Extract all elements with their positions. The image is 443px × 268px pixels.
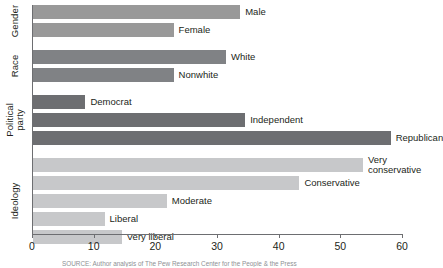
bar-value-label: White [231, 52, 255, 62]
x-tick-label: 30 [211, 240, 223, 252]
group-label-political-party: Political party [0, 95, 30, 145]
bar [33, 113, 245, 127]
bar [33, 5, 240, 19]
x-tick [340, 234, 341, 238]
bar-value-label: Moderate [172, 196, 212, 206]
bar-row: Republican [33, 131, 443, 145]
x-tick-label: 60 [396, 240, 408, 252]
x-tick [402, 234, 403, 238]
bar [33, 131, 391, 145]
x-axis: 0102030405060 [32, 234, 402, 258]
group-label-gender: Gender [0, 5, 30, 37]
bar-row: Conservative [33, 176, 360, 190]
bar [33, 212, 105, 226]
bar-value-label: Independent [250, 115, 303, 125]
bar-value-label: Conservative [304, 178, 359, 188]
bar-row: Very conservative [33, 158, 421, 172]
x-tick [217, 234, 218, 238]
bar-value-label: Liberal [110, 214, 139, 224]
group-label-text: Ideology [10, 183, 20, 220]
group-label-text: Race [10, 55, 20, 78]
bar-row: White [33, 50, 255, 64]
x-tick-label: 40 [273, 240, 285, 252]
bar-row: Moderate [33, 194, 212, 208]
bar [33, 23, 174, 37]
bar [33, 68, 174, 82]
source-note: SOURCE: Author analysis of The Pew Resea… [62, 260, 297, 267]
bar-row: Independent [33, 113, 303, 127]
bar [33, 176, 299, 190]
bar [33, 95, 85, 109]
x-tick-label: 50 [334, 240, 346, 252]
x-tick-label: 20 [149, 240, 161, 252]
bar-value-label: Democrat [90, 97, 131, 107]
x-tick [155, 234, 156, 238]
x-tick-label: 10 [88, 240, 100, 252]
bar-row: Female [33, 23, 210, 37]
bar [33, 158, 363, 172]
bar [33, 50, 226, 64]
group-label-ideology: Ideology [0, 158, 30, 244]
group-label-text: Gender [10, 5, 20, 37]
group-label-text: Political party [5, 103, 25, 137]
bar-value-label: Nonwhite [179, 70, 219, 80]
x-tick-label: 0 [29, 240, 35, 252]
plot-area: MaleFemaleWhiteNonwhiteDemocratIndepende… [32, 5, 402, 234]
bar-row: Democrat [33, 95, 132, 109]
bar-value-label: Very conservative [368, 155, 421, 175]
bar [33, 194, 167, 208]
x-tick [32, 234, 33, 238]
bar-row: Nonwhite [33, 68, 218, 82]
bar-value-label: Female [179, 25, 211, 35]
bar-value-label: Male [245, 7, 266, 17]
bar-value-label: Republican [396, 133, 443, 143]
bar-row: Male [33, 5, 266, 19]
x-tick [94, 234, 95, 238]
bar-row: Liberal [33, 212, 138, 226]
x-tick [279, 234, 280, 238]
group-label-race: Race [0, 50, 30, 82]
